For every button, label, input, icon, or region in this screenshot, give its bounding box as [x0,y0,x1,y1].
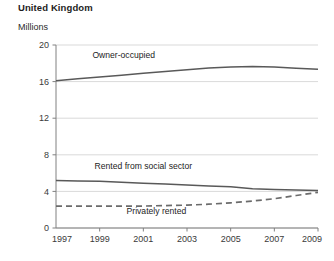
series-line [56,67,318,81]
y-axis-tick-label: 20 [39,40,49,50]
y-axis-tick-label: 8 [44,150,49,160]
line-chart-plot: 048121620 1997199920012003200520072009 O… [0,0,334,261]
series-label: Owner-occupied [92,50,155,60]
x-axis-tick-label: 2009 [302,234,322,244]
y-axis-tick-label: 4 [44,187,49,197]
series-labels-group: Owner-occupiedRented from social sectorP… [92,50,192,216]
y-axis-tick-label: 12 [39,113,49,123]
x-axis-tick-label: 2001 [133,234,153,244]
series-label: Privately rented [127,206,187,216]
chart-container: United Kingdom Millions 048121620 199719… [0,0,334,261]
gridlines-group [56,45,318,228]
x-axis-group: 1997199920012003200520072009 [52,228,322,244]
y-axis-tick-label: 16 [39,77,49,87]
y-axis-tick-label: 0 [44,223,49,233]
x-axis-tick-label: 2003 [177,234,197,244]
series-group [56,67,318,207]
x-axis-tick-label: 2007 [264,234,284,244]
x-axis-tick-label: 1997 [52,234,72,244]
series-line [56,192,318,206]
x-axis-tick-label: 2005 [221,234,241,244]
series-label: Rented from social sector [95,161,193,171]
y-axis-group: 048121620 [39,40,56,233]
x-axis-tick-label: 1999 [90,234,110,244]
series-line [56,180,318,190]
